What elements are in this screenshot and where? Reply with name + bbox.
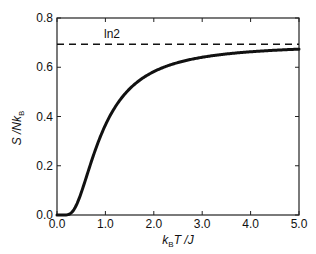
y-tick-label: 0.4: [36, 110, 53, 124]
plot-border: [57, 18, 299, 215]
y-tick-label: 0.2: [36, 159, 53, 173]
data-series: [57, 44, 299, 215]
y-axis-label-subscript: B: [17, 111, 26, 116]
plot-frame: [57, 18, 299, 215]
y-tick-label: 0.0: [36, 208, 53, 222]
x-tick-label: 2.0: [145, 217, 162, 231]
y-tick-label: 0.8: [36, 11, 53, 25]
x-axis-label: kBT /J: [162, 233, 194, 249]
y-tick-label: 0.6: [36, 60, 53, 74]
x-tick-label: 3.0: [194, 217, 211, 231]
ln2-annotation: ln2: [104, 27, 120, 41]
y-axis-label: S /NkB: [10, 111, 26, 146]
x-tick-label: 5.0: [291, 217, 308, 231]
axis-ticks: [57, 18, 299, 215]
x-tick-label: 4.0: [242, 217, 259, 231]
entropy-curve: [57, 49, 299, 215]
entropy-chart: 0.01.02.03.04.05.00.00.20.40.60.8 ln2 S …: [0, 0, 316, 254]
x-axis-label-rest: T /J: [174, 233, 195, 247]
x-tick-label: 1.0: [97, 217, 114, 231]
y-axis-label-main: S /Nk: [10, 115, 24, 145]
